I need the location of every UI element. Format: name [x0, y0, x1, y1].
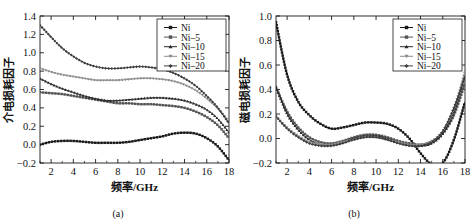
y-tick-label: 0.8 — [259, 35, 272, 46]
legend: NiNi–5Ni–10Ni–15Ni–20 — [157, 19, 226, 71]
y-tick-label: 0.8 — [23, 66, 36, 77]
y-tick-label: 1.2 — [23, 29, 36, 40]
x-tick-label: 14 — [179, 166, 190, 177]
legend-label: Ni — [181, 23, 191, 33]
y-axis-title: 介电损耗因子 — [2, 57, 15, 124]
panel-b-caption: (b) — [236, 208, 472, 219]
x-tick-label: 2 — [284, 166, 289, 177]
chart-panel-a: 24681012141618−0.20.00.20.40.60.81.01.21… — [0, 0, 236, 220]
y-tick-label: 0.6 — [259, 60, 272, 71]
x-tick-label: 16 — [438, 166, 449, 177]
legend-label: Ni–15 — [181, 52, 205, 62]
x-axis-title: 频率/GHz — [347, 180, 394, 193]
x-tick-label: 10 — [371, 166, 382, 177]
legend-label: Ni — [417, 23, 427, 33]
y-tick-label: 1.0 — [259, 11, 272, 22]
legend-label: Ni–10 — [417, 42, 441, 52]
legend-label: Ni–10 — [181, 42, 205, 52]
figure-container: 24681012141618−0.20.00.20.40.60.81.01.21… — [0, 0, 472, 220]
x-tick-label: 6 — [329, 166, 334, 177]
legend: NiNi–5Ni–10Ni–15Ni–20 — [393, 19, 462, 71]
x-tick-label: 8 — [115, 166, 120, 177]
x-tick-label: 4 — [71, 166, 77, 177]
x-tick-label: 8 — [351, 166, 356, 177]
x-tick-label: 4 — [307, 166, 313, 177]
x-tick-label: 10 — [135, 166, 146, 177]
x-tick-label: 14 — [415, 166, 426, 177]
x-axis-title: 频率/GHz — [111, 180, 158, 193]
y-tick-label: 0.4 — [23, 102, 37, 113]
panel-a-caption: (a) — [0, 208, 236, 219]
x-tick-label: 2 — [48, 166, 53, 177]
x-tick-label: 16 — [202, 166, 213, 177]
legend-label: Ni–20 — [417, 61, 441, 71]
legend-label: Ni–5 — [417, 33, 436, 43]
y-tick-label: −0.2 — [253, 158, 272, 169]
y-tick-label: 0.0 — [259, 133, 272, 144]
y-axis-title: 磁电损耗因子 — [238, 57, 251, 123]
x-tick-label: 18 — [460, 166, 471, 177]
chart-a-plot: 24681012141618−0.20.00.20.40.60.81.01.21… — [0, 0, 236, 200]
x-tick-label: 12 — [157, 166, 168, 177]
y-tick-label: 1.4 — [23, 11, 37, 22]
y-tick-label: 0.2 — [259, 109, 272, 120]
y-tick-label: −0.2 — [17, 158, 36, 169]
y-tick-label: 0.0 — [23, 139, 36, 150]
legend-label: Ni–5 — [181, 33, 200, 43]
y-tick-label: 1.0 — [23, 47, 36, 58]
legend-label: Ni–20 — [181, 61, 205, 71]
legend-label: Ni–15 — [417, 52, 441, 62]
x-tick-label: 12 — [393, 166, 404, 177]
y-tick-label: 0.2 — [23, 121, 36, 132]
chart-b-plot: 24681012141618−0.20.00.20.40.60.81.0频率/G… — [236, 0, 472, 200]
x-tick-label: 6 — [93, 166, 98, 177]
x-tick-label: 18 — [224, 166, 235, 177]
y-tick-label: 0.6 — [23, 84, 36, 95]
chart-panel-b: 24681012141618−0.20.00.20.40.60.81.0频率/G… — [236, 0, 472, 220]
y-tick-label: 0.4 — [259, 84, 273, 95]
